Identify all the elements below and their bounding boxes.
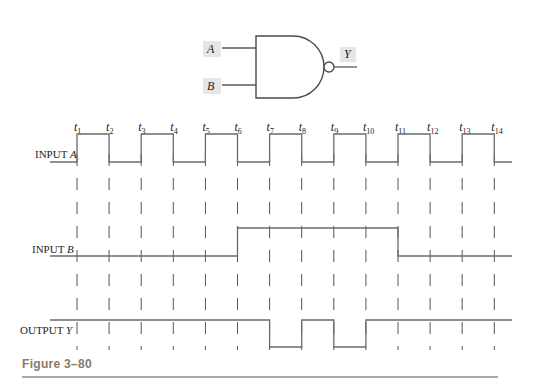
- input-a-row-label: INPUT A: [35, 148, 77, 160]
- input-a-waveform: [50, 134, 512, 162]
- output-y-waveform: [50, 320, 512, 347]
- nand-gate-symbol: A B Y: [203, 36, 357, 98]
- and-body-shape: [256, 36, 324, 98]
- input-b-row-label: INPUT B: [32, 243, 74, 255]
- input-b-waveform: [50, 228, 512, 256]
- input-b-label: B: [207, 79, 215, 93]
- inversion-bubble-icon: [324, 62, 334, 72]
- output-y-row-label: OUTPUT Y: [20, 324, 74, 336]
- input-a-label: A: [206, 42, 215, 56]
- figure-caption: Figure 3–80: [22, 357, 92, 371]
- nand-timing-figure: A B Y t1t2t3t4t5t6t7t8t9t10t11t12t13t14 …: [0, 0, 536, 380]
